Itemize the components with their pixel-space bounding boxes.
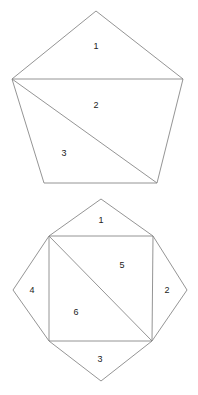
pentagon-region-label-3: 3 <box>61 148 66 158</box>
pentagon-region-label-1: 1 <box>93 41 98 51</box>
octagon-region-label-6: 6 <box>73 307 78 317</box>
octagon-region-label-5: 5 <box>119 260 124 270</box>
octagon-region-label-3: 3 <box>97 354 102 364</box>
pentagon-region-label-2: 2 <box>93 100 98 110</box>
octagon-region-label-4: 4 <box>29 285 34 295</box>
octagon-region-label-1: 1 <box>98 215 103 225</box>
octagon-region-label-2: 2 <box>164 285 169 295</box>
canvas-background <box>0 0 198 395</box>
geometry-figure-canvas: 1 2 3 1 2 3 4 5 6 <box>0 0 198 395</box>
